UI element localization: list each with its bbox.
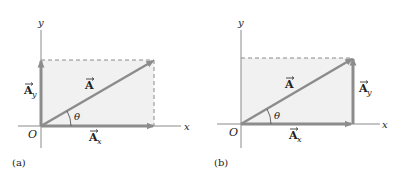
svg-text:x: x (297, 135, 302, 144)
svg-text:x: x (97, 137, 102, 146)
vector-ay-label: A y (358, 81, 372, 98)
origin-label: O (229, 126, 238, 139)
svg-text:A: A (84, 79, 94, 92)
svg-text:y: y (31, 90, 37, 99)
svg-text:y: y (366, 88, 372, 97)
angle-label: θ (74, 111, 80, 122)
vector-a-label: A (84, 78, 94, 93)
origin-label: O (28, 128, 37, 141)
vector-a-label: A (284, 77, 294, 92)
y-axis-label: y (237, 17, 244, 28)
panel-caption: (a) (12, 157, 26, 168)
svg-text:A: A (284, 78, 294, 91)
panel-a: y x O θ A A x A y (a) (12, 17, 190, 168)
x-axis-label: x (184, 121, 190, 132)
vector-ax-label: A x (88, 130, 102, 147)
y-axis-label: y (37, 17, 44, 28)
vector-ay-label: A y (23, 83, 37, 100)
vector-components-figure: y x O θ A A x A y (a) (0, 0, 413, 178)
panel-caption: (b) (214, 157, 228, 168)
x-axis-label: x (382, 119, 388, 130)
angle-label: θ (274, 110, 280, 121)
panel-b: y x O θ A A x A y (b) (214, 17, 388, 168)
vector-ax-label: A x (288, 128, 302, 145)
